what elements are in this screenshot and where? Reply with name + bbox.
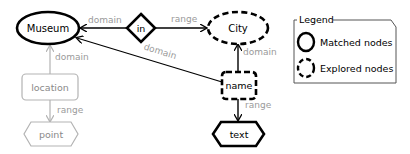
node-in[interactable]: in xyxy=(127,14,155,42)
node-museum-label: Museum xyxy=(27,23,69,34)
node-museum[interactable]: Museum xyxy=(17,12,79,44)
node-city[interactable]: City xyxy=(208,12,268,44)
node-text-label: text xyxy=(230,129,249,140)
node-text[interactable]: text xyxy=(213,122,264,146)
edge-label-name-city: domain xyxy=(243,47,277,57)
node-point-label: point xyxy=(39,129,64,140)
legend: Legend Matched nodes Explored nodes xyxy=(294,14,396,83)
explored-node-icon xyxy=(298,59,314,77)
legend-title: Legend xyxy=(299,14,334,25)
edge-label-name-museum: domain xyxy=(143,42,178,61)
node-location[interactable]: location xyxy=(22,74,78,100)
matched-node-icon xyxy=(298,33,314,51)
node-city-label: City xyxy=(228,23,248,34)
legend-item-matched: Matched nodes xyxy=(298,33,393,51)
edge-label-location-point: range xyxy=(57,105,84,115)
edge-label-in-city: range xyxy=(171,14,198,24)
edge-label-name-text: range xyxy=(245,100,272,110)
node-name[interactable]: name xyxy=(222,72,256,99)
edge-label-location-museum: domain xyxy=(55,52,89,62)
node-in-label: in xyxy=(137,23,146,34)
node-location-label: location xyxy=(31,82,69,93)
legend-item-explored: Explored nodes xyxy=(298,59,393,77)
node-name-label: name xyxy=(226,80,253,91)
edge-label-in-museum: domain xyxy=(88,15,122,25)
ontology-diagram: domain range domain range domain domain … xyxy=(0,0,410,154)
node-point[interactable]: point xyxy=(24,122,78,146)
legend-item-explored-label: Explored nodes xyxy=(320,63,393,74)
legend-item-matched-label: Matched nodes xyxy=(320,37,393,48)
